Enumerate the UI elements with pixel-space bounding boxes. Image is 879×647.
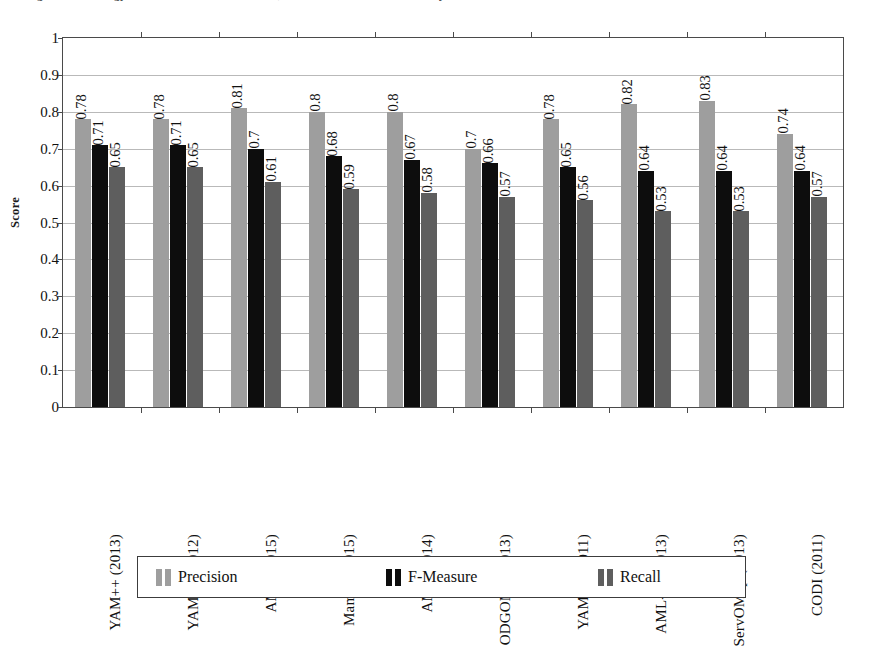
bar-value-label-holder: 0.64 (794, 127, 810, 171)
bar-value-label: 0.59 (342, 164, 357, 189)
bar-value-label-holder: 0.8 (309, 68, 325, 112)
legend-item-f-measure[interactable]: F-Measure (386, 568, 477, 586)
figure-caption-text: Figure: Technology conference results: P… (26, 0, 475, 2)
legend-label: F-Measure (408, 568, 477, 586)
bar-group: 0.780.650.56 (543, 38, 593, 407)
bar-value-label: 0.61 (264, 157, 279, 182)
figure-caption-strip: Figure: Technology conference results: P… (0, 0, 879, 14)
bar-value-label-holder: 0.7 (248, 105, 264, 149)
bar-group: 0.830.640.53 (699, 38, 749, 407)
bar-recall[interactable]: 0.53 (655, 211, 671, 407)
bar-value-label: 0.8 (386, 94, 401, 112)
legend-item-recall[interactable]: Recall (598, 568, 661, 586)
bar-precision[interactable]: 0.7 (465, 149, 481, 407)
bar-value-label: 0.66 (481, 138, 496, 163)
bar-value-label-holder: 0.53 (733, 167, 749, 211)
bar-value-label-holder: 0.78 (543, 75, 559, 119)
bar-value-label-holder: 0.78 (153, 75, 169, 119)
y-tick-label: 0.3 (13, 289, 59, 304)
y-tick-label: 0.6 (13, 178, 59, 193)
bar-group: 0.810.70.61 (231, 38, 281, 407)
legend-swatch-group (598, 569, 613, 586)
bar-f-measure[interactable]: 0.64 (794, 171, 810, 407)
bar-value-label: 0.78 (152, 94, 167, 119)
bar-value-label-holder: 0.64 (716, 127, 732, 171)
bar-group: 0.70.660.57 (465, 38, 515, 407)
bar-recall[interactable]: 0.53 (733, 211, 749, 407)
bar-group: 0.740.640.57 (777, 38, 827, 407)
bar-value-label-holder: 0.83 (699, 57, 715, 101)
legend-label: Precision (178, 568, 238, 586)
bar-value-label: 0.78 (542, 94, 557, 119)
legend-color-swatch (165, 569, 171, 586)
bar-precision[interactable]: 0.78 (153, 119, 169, 407)
bar-value-label: 0.7 (247, 131, 262, 149)
bar-value-label: 0.65 (108, 142, 123, 167)
bar-f-measure[interactable]: 0.71 (170, 145, 186, 407)
bar-precision[interactable]: 0.74 (777, 134, 793, 407)
legend-swatch-group (386, 569, 401, 586)
bar-value-label-holder: 0.65 (187, 123, 203, 167)
bar-precision[interactable]: 0.78 (75, 119, 91, 407)
bar-value-label-holder: 0.78 (75, 75, 91, 119)
x-tick-mark-top (219, 32, 220, 38)
bar-value-label-holder: 0.66 (482, 119, 498, 163)
legend-color-swatch (598, 569, 604, 586)
bar-group: 0.820.640.53 (621, 38, 671, 407)
bar-value-label-holder: 0.71 (170, 101, 186, 145)
bar-precision[interactable]: 0.81 (231, 108, 247, 407)
bar-value-label: 0.83 (698, 75, 713, 100)
legend-color-swatch (607, 569, 613, 586)
bar-recall[interactable]: 0.65 (187, 167, 203, 407)
x-category-label: YAM++ (2013) (107, 534, 124, 630)
bar-f-measure[interactable]: 0.67 (404, 160, 420, 407)
legend-color-swatch (386, 569, 392, 586)
bar-value-label: 0.71 (91, 120, 106, 145)
bar-value-label-holder: 0.65 (109, 123, 125, 167)
bar-value-label-holder: 0.64 (638, 127, 654, 171)
bar-f-measure[interactable]: 0.7 (248, 149, 264, 407)
bar-f-measure[interactable]: 0.68 (326, 156, 342, 407)
bar-recall[interactable]: 0.61 (265, 182, 281, 407)
x-tick-mark-top (531, 32, 532, 38)
bar-f-measure[interactable]: 0.65 (560, 167, 576, 407)
bar-value-label-holder: 0.57 (499, 153, 515, 197)
bar-recall[interactable]: 0.57 (499, 197, 515, 407)
y-tick-label: 0.8 (13, 104, 59, 119)
x-tick-mark-top (687, 32, 688, 38)
bar-value-label-holder: 0.67 (404, 116, 420, 160)
bar-recall[interactable]: 0.65 (109, 167, 125, 407)
bar-value-label-holder: 0.57 (811, 153, 827, 197)
legend-item-precision[interactable]: Precision (156, 568, 238, 586)
bar-recall[interactable]: 0.59 (343, 189, 359, 407)
bar-value-label: 0.56 (576, 175, 591, 200)
bar-value-label-holder: 0.68 (326, 112, 342, 156)
bar-value-label: 0.64 (715, 145, 730, 170)
y-tick-label: 0.2 (13, 326, 59, 341)
bar-value-label: 0.57 (498, 171, 513, 196)
bar-value-label: 0.53 (732, 186, 747, 211)
bar-recall[interactable]: 0.57 (811, 197, 827, 407)
bar-f-measure[interactable]: 0.66 (482, 163, 498, 407)
bar-value-label-holder: 0.74 (777, 90, 793, 134)
y-tick-label: 0.4 (13, 252, 59, 267)
y-tick-label: 0 (13, 400, 59, 415)
x-category-label: CODI (2011) (809, 534, 826, 616)
bar-recall[interactable]: 0.58 (421, 193, 437, 407)
bar-value-label: 0.7 (464, 131, 479, 149)
bar-value-label-holder: 0.53 (655, 167, 671, 211)
y-tick-label: 0.5 (13, 215, 59, 230)
y-tick-mark (58, 407, 63, 408)
chart-plot-area: 10.90.80.70.60.50.40.30.20.10 0.780.710.… (62, 37, 844, 408)
bar-f-measure[interactable]: 0.71 (92, 145, 108, 407)
bar-value-label-holder: 0.65 (560, 123, 576, 167)
bar-value-label: 0.71 (169, 120, 184, 145)
bar-value-label: 0.82 (620, 79, 635, 104)
bar-value-label: 0.64 (793, 145, 808, 170)
bar-value-label-holder: 0.71 (92, 101, 108, 145)
x-tick-mark-top (765, 32, 766, 38)
bar-recall[interactable]: 0.56 (577, 200, 593, 407)
bar-value-label: 0.64 (637, 145, 652, 170)
y-tick-label: 1 (13, 31, 59, 46)
bars-layer: 0.780.710.650.780.710.650.810.70.610.80.… (63, 38, 843, 407)
